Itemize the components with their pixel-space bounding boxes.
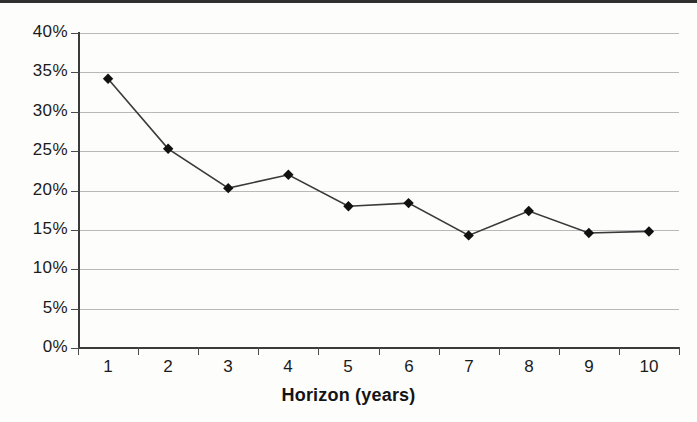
line-chart-figure: 0%5%10%15%20%25%30%35%40% 12345678910 Ho… — [0, 0, 697, 422]
data-series-layer — [0, 0, 697, 422]
data-point-marker — [343, 201, 353, 211]
data-point-marker — [524, 206, 534, 216]
x-axis-title: Horizon (years) — [0, 385, 697, 406]
data-point-marker — [644, 226, 654, 236]
data-point-marker — [584, 228, 594, 238]
data-point-marker — [283, 170, 293, 180]
series-markers — [103, 73, 654, 240]
series-line — [108, 79, 649, 236]
data-point-marker — [223, 183, 233, 193]
data-point-marker — [403, 198, 413, 208]
data-point-marker — [463, 230, 473, 240]
